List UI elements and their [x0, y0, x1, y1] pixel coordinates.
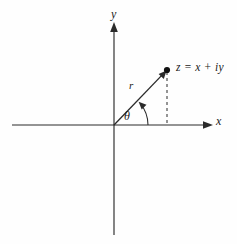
argand-diagram-figure: y x r θ z = x + iy [0, 0, 237, 244]
point-z-label: z = x + iy [176, 62, 224, 74]
y-axis-label: y [111, 8, 116, 20]
diagram-canvas [0, 0, 237, 244]
angle-arc-arrowhead [139, 102, 147, 110]
radius-vector-line [114, 74, 163, 125]
x-axis-label: x [216, 115, 221, 127]
point-z-marker [164, 67, 170, 73]
radius-label: r [129, 80, 133, 91]
angle-theta-label: θ [124, 110, 130, 122]
x-axis-arrowhead [203, 121, 213, 129]
y-axis-arrowhead [110, 22, 118, 32]
